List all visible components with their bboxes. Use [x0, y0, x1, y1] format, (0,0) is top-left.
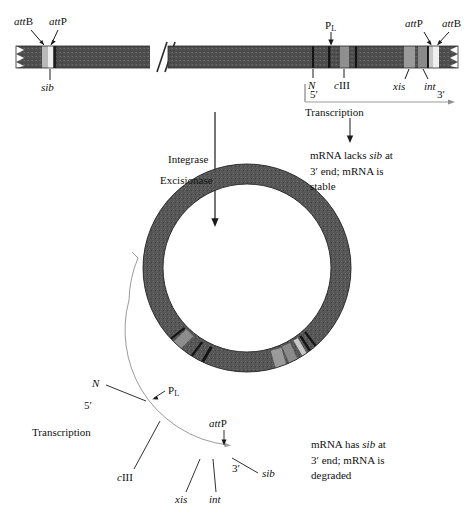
label-int-circle: int [209, 492, 221, 506]
linear-dna-right-segment [168, 46, 458, 68]
label-xis-circle: xis [175, 492, 187, 506]
linear-outcome-arrow [347, 118, 353, 143]
outcome-text-circular: mRNA has sib at 3′ end; mRNA is degraded [311, 437, 463, 484]
label-three-prime-linear: 3′ [437, 87, 445, 101]
label-integrase: Integrase [168, 152, 208, 166]
pl-linear-pointer [328, 32, 333, 46]
label-attp-right: attP [405, 16, 423, 30]
outcome-text-linear: mRNA lacks sib at 3′ end; mRNA is stable [310, 148, 460, 195]
circle-xis-leader [186, 459, 200, 492]
label-attp-circle: attP [209, 416, 227, 430]
circle-ciii-leader [134, 421, 160, 469]
label-sib-circle: sib [262, 466, 275, 480]
int-linear-leader [423, 69, 428, 79]
label-attb-left: attB [14, 14, 33, 28]
label-three-prime-circle: 3′ [232, 461, 240, 475]
label-excisionase: Excisionase [160, 173, 213, 187]
attp-right-pointer [424, 32, 432, 45]
label-five-prime-linear: 5′ [310, 87, 318, 101]
circle-int-leader [213, 459, 216, 492]
xis-linear-leader [405, 69, 409, 79]
attb-left-pointer [31, 30, 44, 45]
label-pl-linear: PL [325, 18, 336, 34]
circle-pl-pointer [152, 391, 165, 399]
label-transcription-circle: Transcription [32, 425, 91, 439]
label-ciii-circle: cIII [117, 470, 133, 484]
linear-dna-left-segment [16, 46, 154, 68]
label-attp-left: attP [49, 14, 67, 28]
label-int-linear: int [424, 79, 436, 93]
label-attb-right: attB [442, 16, 461, 30]
label-five-prime-circle: 5′ [84, 398, 92, 412]
label-sib-linear: sib [41, 80, 54, 94]
label-transcription-linear: Transcription [305, 105, 364, 119]
label-xis-linear: xis [393, 79, 405, 93]
figure-canvas: attB attP sib PL N cIII xis int attP att… [0, 0, 474, 526]
circle-attp-pointer [222, 430, 227, 445]
label-ciii-linear: cIII [334, 78, 350, 92]
attb-right-pointer [437, 32, 449, 45]
label-n-circle: N [92, 376, 99, 390]
label-pl-circle: PL [168, 383, 179, 399]
attp-left-pointer [51, 30, 58, 45]
